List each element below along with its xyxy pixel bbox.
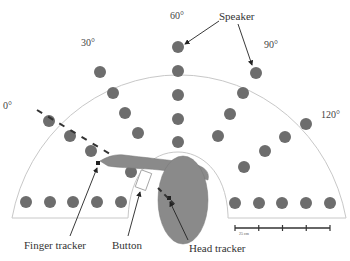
speaker-dot — [44, 196, 56, 208]
speaker-arrow-2 — [238, 24, 252, 65]
speaker-dot — [20, 196, 32, 208]
speaker-dot — [224, 108, 236, 120]
speaker-label: Speaker — [219, 11, 254, 22]
speaker-dot — [238, 161, 250, 173]
button-label: Button — [112, 240, 142, 251]
angle-label-90: 90° — [264, 40, 278, 50]
speaker-dot — [300, 118, 312, 130]
speaker-dot — [276, 197, 288, 209]
angle-label-120: 120° — [321, 110, 340, 120]
angle-label-30: 30° — [81, 38, 95, 48]
speaker-dot — [115, 196, 127, 208]
speaker-dot — [250, 67, 262, 79]
head-tracker-label: Head tracker — [189, 243, 246, 254]
speaker-dot — [229, 197, 241, 209]
speaker-dot — [172, 65, 184, 77]
angle-label-0: 0° — [3, 101, 12, 111]
scale-bar — [235, 225, 330, 231]
angle-label-60: 60° — [170, 11, 184, 21]
speaker-dot — [172, 89, 184, 101]
speaker-dot — [212, 130, 224, 142]
speaker-array-diagram: 0° 30° 60° 90° 120° Speaker Finger track… — [0, 0, 350, 261]
button-shape — [135, 170, 151, 191]
speaker-dot — [259, 145, 271, 157]
speaker-dot — [253, 197, 265, 209]
speaker-dot — [107, 87, 119, 99]
speaker-dot — [279, 131, 291, 143]
finger-tracker-marker — [96, 161, 100, 165]
finger-tracker-label: Finger tracker — [24, 240, 86, 251]
speaker-dot — [172, 41, 184, 53]
diagram-svg — [0, 0, 350, 261]
speaker-dot — [237, 87, 249, 99]
speaker-dot — [132, 127, 144, 139]
speaker-dot — [67, 196, 79, 208]
speaker-dot — [324, 197, 336, 209]
speaker-dot — [91, 196, 103, 208]
speaker-dot — [119, 107, 131, 119]
speaker-dot — [172, 136, 184, 148]
speaker-dot — [172, 113, 184, 125]
speaker-dot — [300, 197, 312, 209]
speaker-dot — [85, 145, 97, 157]
speaker-dot — [94, 66, 106, 78]
scale-label: 25 cm — [239, 232, 249, 236]
speaker-arrow-1 — [185, 21, 219, 44]
head-body-shape — [158, 156, 208, 244]
zero-degree-line — [37, 110, 120, 160]
